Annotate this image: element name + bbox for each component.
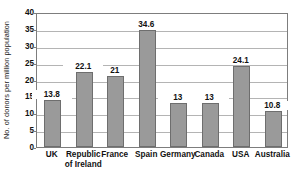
y-axis-tick-label: 25 (14, 60, 34, 68)
bar-value-label: 10.8 (252, 101, 292, 110)
bars-layer (37, 14, 287, 147)
y-axis-tick-label: 10 (14, 110, 34, 118)
x-axis-label-line: Australia (244, 150, 297, 160)
y-axis-tick-mark (32, 114, 36, 115)
y-axis-tick-mark (32, 131, 36, 132)
bar[interactable] (170, 103, 187, 147)
bar[interactable] (107, 76, 124, 147)
bar-value-label: 13.8 (32, 90, 72, 99)
x-axis-tick-labels: UKRepublicof IrelandFranceSpainGermanyCa… (36, 150, 288, 179)
bar-value-label: 13 (189, 93, 229, 102)
x-axis-label-line: of Ireland (55, 160, 111, 170)
y-axis-title: No. of donors per million population (1, 5, 12, 155)
bar[interactable] (139, 30, 156, 147)
y-axis-tick-mark (32, 13, 36, 14)
bar[interactable] (202, 103, 219, 147)
bar[interactable] (44, 100, 61, 147)
y-axis-tick-label: 30 (14, 43, 34, 51)
bar[interactable] (76, 72, 93, 147)
bar-value-label: 24.1 (221, 56, 261, 65)
y-axis-tick-mark (32, 64, 36, 65)
bar[interactable] (265, 111, 282, 147)
y-axis-tick-mark (32, 148, 36, 149)
y-axis-tick-mark (32, 30, 36, 31)
bar[interactable] (233, 66, 250, 147)
y-axis-tick-label: 40 (14, 9, 34, 17)
y-axis-tick-label: 20 (14, 77, 34, 85)
bar-value-label: 21 (95, 66, 135, 75)
bar-value-label: 34.6 (126, 20, 166, 29)
y-axis-tick-label: 5 (14, 127, 34, 135)
y-axis-tick-label: 35 (14, 26, 34, 34)
y-axis-tick-mark (32, 47, 36, 48)
y-axis-tick-mark (32, 81, 36, 82)
x-axis-tick-label: Australia (244, 150, 297, 160)
plot-area (36, 13, 288, 148)
bar-chart: No. of donors per million population 051… (0, 0, 297, 179)
